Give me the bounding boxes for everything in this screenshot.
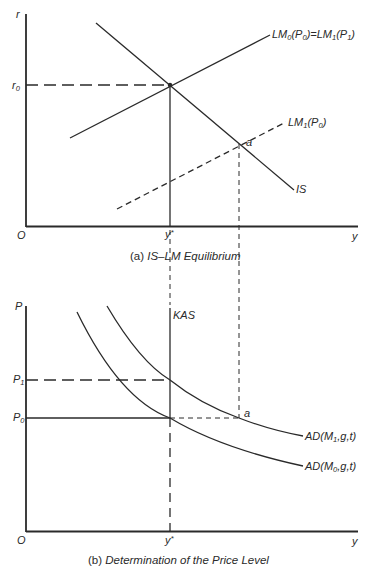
panel-b-origin-label: O [17,535,26,546]
ad1-curve [107,306,303,436]
panel-a-origin-label: O [17,230,26,241]
panel-b-x-axis-label: y [352,536,358,547]
panel-b-caption: (b) Determination of the Price Level [88,555,269,567]
lm1-curve [117,122,286,209]
p1-label: P1 [13,374,25,387]
panel-a-ystar-label: y* [165,229,174,240]
lm0-label: LM0(P0)=LM1(P1) [272,29,355,42]
panel-b-ystar-label: y* [165,535,174,546]
is-label: IS [296,184,306,195]
panel-a-caption: (a) IS–LM Equilibrium [130,251,241,263]
lm1-label: LM1(P0) [288,117,326,130]
is-lm-ad-diagram [0,0,373,571]
equilibrium-point [168,83,171,86]
panel-a-x-axis-label: y [352,231,358,242]
r0-label: r0 [12,80,20,93]
panel-b-y-axis-label: P [15,301,22,312]
p0-label: P0 [13,412,25,425]
ad0-curve [77,312,303,466]
ad1-label: AD(M1,g,t) [305,431,356,444]
panel-b-point-a-label: a [244,408,250,419]
panel-a-y-axis-label: r [16,9,20,20]
kas-label: KAS [173,310,195,321]
is-curve [96,23,294,190]
ad0-label: AD(M0,g,t) [305,461,356,474]
panel-a-point-a-label: a [246,137,252,148]
